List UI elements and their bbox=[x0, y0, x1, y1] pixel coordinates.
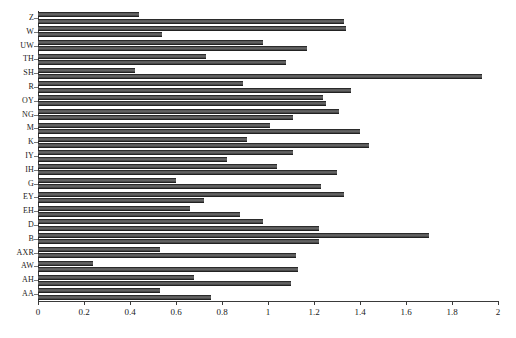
y-axis-tick-label: AA bbox=[2, 289, 34, 298]
bar bbox=[38, 164, 277, 169]
bar bbox=[38, 239, 319, 244]
bar-chart: ZWUWTHSHROYNGMKIYIHGEYEHDBAXRAWAHAA 00.2… bbox=[0, 0, 516, 338]
bar bbox=[38, 198, 204, 203]
bar bbox=[38, 26, 346, 31]
bar bbox=[38, 275, 194, 280]
x-axis-tick bbox=[84, 301, 85, 305]
y-axis-tick-label: W bbox=[2, 27, 34, 36]
bar bbox=[38, 192, 344, 197]
bar bbox=[38, 32, 162, 37]
y-axis-tick bbox=[34, 115, 38, 116]
y-axis-tick-label: NG bbox=[2, 110, 34, 119]
bar bbox=[38, 219, 263, 224]
y-axis-tick-label: IY bbox=[2, 151, 34, 160]
y-axis-tick bbox=[34, 142, 38, 143]
y-axis-tick-label: EH bbox=[2, 206, 34, 215]
y-axis-tick bbox=[34, 184, 38, 185]
x-axis-tick bbox=[498, 301, 499, 305]
y-axis-tick bbox=[34, 253, 38, 254]
y-axis-tick-label: B bbox=[2, 234, 34, 243]
y-axis-tick bbox=[34, 73, 38, 74]
y-axis-tick-label: TH bbox=[2, 54, 34, 63]
bar bbox=[38, 95, 323, 100]
x-axis-tick-label: 2 bbox=[483, 307, 513, 318]
x-axis-tick bbox=[406, 301, 407, 305]
bar bbox=[38, 184, 321, 189]
y-axis-tick bbox=[34, 280, 38, 281]
y-axis-tick bbox=[34, 225, 38, 226]
bar bbox=[38, 143, 369, 148]
y-axis-tick bbox=[34, 32, 38, 33]
y-axis-tick bbox=[34, 101, 38, 102]
x-axis-tick bbox=[222, 301, 223, 305]
x-axis-tick bbox=[360, 301, 361, 305]
bar bbox=[38, 54, 206, 59]
y-axis-tick bbox=[34, 87, 38, 88]
bar bbox=[38, 12, 139, 17]
y-axis-tick-label: AXR bbox=[2, 248, 34, 257]
bar bbox=[38, 60, 286, 65]
y-axis-tick-label: K bbox=[2, 137, 34, 146]
x-axis-tick bbox=[176, 301, 177, 305]
y-axis-tick-label: EY bbox=[2, 192, 34, 201]
y-axis-tick bbox=[34, 239, 38, 240]
bar bbox=[38, 150, 293, 155]
y-axis-tick bbox=[34, 18, 38, 19]
x-axis-tick bbox=[130, 301, 131, 305]
bar bbox=[38, 178, 176, 183]
x-axis-tick-label: 1 bbox=[253, 307, 283, 318]
bar bbox=[38, 88, 351, 93]
y-axis-tick-label: G bbox=[2, 179, 34, 188]
y-axis-tick bbox=[34, 170, 38, 171]
x-axis-tick-label: 1.2 bbox=[299, 307, 329, 318]
x-axis-tick-label: 0.6 bbox=[161, 307, 191, 318]
bar bbox=[38, 261, 93, 266]
x-axis-tick-label: 0.8 bbox=[207, 307, 237, 318]
y-axis-tick-label: UW bbox=[2, 41, 34, 50]
x-axis-tick bbox=[38, 301, 39, 305]
bar bbox=[38, 206, 190, 211]
y-axis-tick-label: OY bbox=[2, 96, 34, 105]
bar bbox=[38, 81, 243, 86]
y-axis-tick bbox=[34, 128, 38, 129]
bar bbox=[38, 40, 263, 45]
bar bbox=[38, 101, 326, 106]
bar bbox=[38, 295, 211, 300]
bar bbox=[38, 46, 307, 51]
y-axis-tick-label: M bbox=[2, 123, 34, 132]
y-axis-tick-label: AW bbox=[2, 261, 34, 270]
x-axis-tick-label: 1.4 bbox=[345, 307, 375, 318]
y-axis-tick-label: AH bbox=[2, 275, 34, 284]
bar bbox=[38, 157, 227, 162]
bar bbox=[38, 233, 429, 238]
x-axis-tick bbox=[452, 301, 453, 305]
bar bbox=[38, 74, 482, 79]
y-axis-tick bbox=[34, 266, 38, 267]
x-axis-tick bbox=[314, 301, 315, 305]
y-axis-tick-label: Z bbox=[2, 13, 34, 22]
bar bbox=[38, 247, 160, 252]
bar bbox=[38, 212, 240, 217]
y-axis-tick-label: IH bbox=[2, 165, 34, 174]
bar bbox=[38, 68, 135, 73]
bar bbox=[38, 288, 160, 293]
y-axis-tick-label: D bbox=[2, 220, 34, 229]
bar bbox=[38, 19, 344, 24]
y-axis-tick bbox=[34, 294, 38, 295]
x-axis-tick-label: 0.4 bbox=[115, 307, 145, 318]
y-axis-labels: ZWUWTHSHROYNGMKIYIHGEYEHDBAXRAWAHAA bbox=[0, 11, 34, 301]
bar bbox=[38, 170, 337, 175]
bar bbox=[38, 137, 247, 142]
y-axis-tick-label: SH bbox=[2, 68, 34, 77]
bar bbox=[38, 109, 339, 114]
bar bbox=[38, 115, 293, 120]
x-axis-tick-label: 1.6 bbox=[391, 307, 421, 318]
y-axis-tick bbox=[34, 197, 38, 198]
x-axis-tick-label: 0.2 bbox=[69, 307, 99, 318]
y-axis-tick bbox=[34, 59, 38, 60]
x-axis-tick-label: 1.8 bbox=[437, 307, 467, 318]
y-axis-tick bbox=[34, 46, 38, 47]
bar bbox=[38, 123, 270, 128]
bar bbox=[38, 253, 296, 258]
x-axis-tick-label: 0 bbox=[23, 307, 53, 318]
